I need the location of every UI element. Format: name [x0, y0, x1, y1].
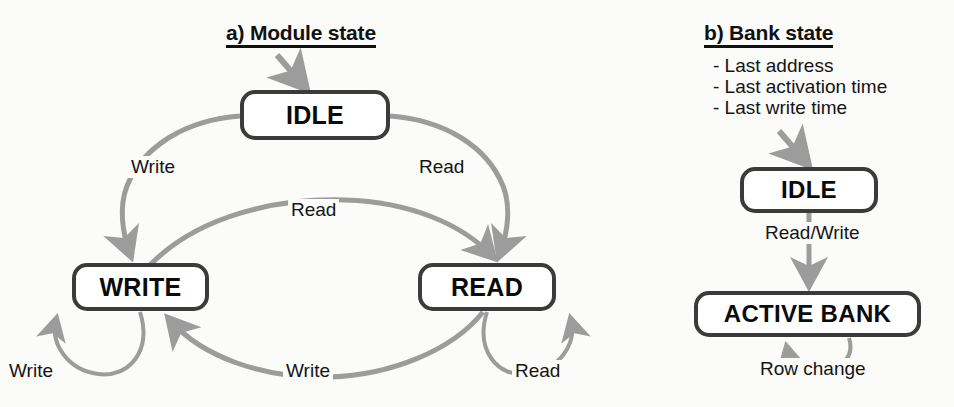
state-diagram-figure: a) Module state IDLE WRITE READ Write Re… — [0, 0, 954, 407]
state-label-write: WRITE — [99, 273, 181, 302]
state-label-active-bank: ACTIVE BANK — [724, 300, 891, 328]
edge-label-active-bank-self-loop: Row change — [757, 358, 869, 380]
panel-b-title: b) Bank state — [704, 22, 833, 48]
panel-a-title: a) Module state — [226, 22, 376, 48]
bank-note-item: - Last write time — [713, 97, 887, 118]
edge-idle-to-read — [390, 116, 508, 254]
edge-start-to-idle-a — [277, 55, 304, 86]
edge-start-to-idle-b — [779, 131, 806, 162]
state-label-idle-bank: IDLE — [781, 176, 837, 204]
state-label-read: READ — [451, 273, 523, 302]
edge-label-idle-to-read: Read — [416, 156, 467, 178]
state-node-idle-bank[interactable]: IDLE — [740, 167, 878, 213]
edge-write-self-loop — [55, 312, 143, 374]
edge-idle-to-write — [122, 116, 240, 254]
edge-label-read-to-write: Write — [283, 360, 333, 382]
edge-label-write-to-read: Read — [288, 199, 339, 221]
edge-label-idle-to-active-bank: Read/Write — [762, 222, 863, 244]
state-label-idle-module: IDLE — [286, 101, 344, 130]
state-node-active-bank[interactable]: ACTIVE BANK — [694, 291, 921, 337]
edge-label-write-self-loop: Write — [6, 360, 56, 382]
edge-label-idle-to-write: Write — [128, 156, 178, 178]
state-node-idle-module[interactable]: IDLE — [240, 90, 390, 140]
bank-note-item: - Last activation time — [713, 76, 887, 97]
state-node-read[interactable]: READ — [418, 263, 556, 311]
bank-state-notes-list: - Last address - Last activation time - … — [713, 55, 887, 118]
bank-note-item: - Last address — [713, 55, 887, 76]
edge-label-read-self-loop: Read — [512, 360, 563, 382]
state-node-write[interactable]: WRITE — [72, 263, 209, 311]
